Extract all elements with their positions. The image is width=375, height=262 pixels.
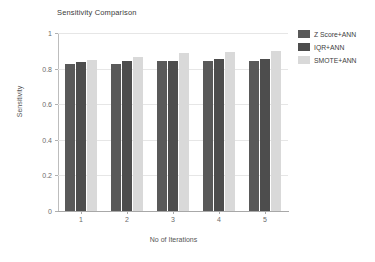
bar[interactable] <box>179 53 189 211</box>
x-axis-tick-mark <box>265 211 266 214</box>
y-axis-tick-label: 0.6 <box>42 101 52 108</box>
bar[interactable] <box>65 64 75 211</box>
bar[interactable] <box>168 61 178 211</box>
x-axis-tick-mark <box>127 211 128 214</box>
bar[interactable] <box>133 57 143 211</box>
legend-swatch-icon <box>298 30 310 38</box>
y-axis-tick-mark <box>55 140 58 141</box>
bar-group <box>242 33 288 211</box>
bar-group <box>196 33 242 211</box>
x-axis-tick-mark <box>173 211 174 214</box>
legend-swatch-icon <box>298 43 310 51</box>
x-axis-tick-label: 3 <box>163 216 183 223</box>
x-axis-tick-mark <box>81 211 82 214</box>
bar[interactable] <box>249 61 259 211</box>
bar[interactable] <box>225 52 235 211</box>
legend-label: Z Score+ANN <box>314 31 356 38</box>
bar-group <box>150 33 196 211</box>
y-axis-tick-label: 0 <box>48 208 52 215</box>
bar[interactable] <box>260 59 270 211</box>
legend-label: IQR+ANN <box>314 44 344 51</box>
bar[interactable] <box>157 61 167 211</box>
chart-legend: Z Score+ANNIQR+ANNSMOTE+ANN <box>298 28 373 67</box>
chart-title: Sensitivity Comparison <box>57 8 137 17</box>
bar[interactable] <box>87 60 97 211</box>
legend-swatch-icon <box>298 56 310 64</box>
bar-group <box>104 33 150 211</box>
x-axis-tick-label: 2 <box>117 216 137 223</box>
y-axis-tick-mark <box>55 175 58 176</box>
y-axis-tick-label: 0.2 <box>42 172 52 179</box>
y-axis-tick-label: 1 <box>48 30 52 37</box>
bar[interactable] <box>203 61 213 211</box>
plot-area <box>58 33 288 211</box>
legend-label: SMOTE+ANN <box>314 57 357 64</box>
legend-item[interactable]: Z Score+ANN <box>298 28 373 40</box>
x-axis-tick-mark <box>219 211 220 214</box>
x-axis-title: No of Iterations <box>58 236 289 243</box>
y-axis-tick-label: 0.8 <box>42 65 52 72</box>
y-axis-tick-mark <box>55 104 58 105</box>
y-axis-tick-mark <box>55 211 58 212</box>
bar[interactable] <box>122 61 132 211</box>
y-axis-tick-labels: 00.20.40.60.81 <box>0 0 52 262</box>
legend-item[interactable]: IQR+ANN <box>298 41 373 53</box>
bar[interactable] <box>271 51 281 211</box>
y-axis-tick-mark <box>55 33 58 34</box>
x-axis-tick-label: 5 <box>255 216 275 223</box>
chart-figure: Sensitivity Comparison 00.20.40.60.81 Se… <box>0 0 375 262</box>
x-axis-tick-label: 4 <box>209 216 229 223</box>
bar[interactable] <box>111 64 121 211</box>
bar-group <box>58 33 104 211</box>
bar[interactable] <box>76 62 86 211</box>
x-axis-tick-label: 1 <box>71 216 91 223</box>
legend-item[interactable]: SMOTE+ANN <box>298 54 373 66</box>
y-axis-tick-label: 0.4 <box>42 136 52 143</box>
bar[interactable] <box>214 59 224 211</box>
y-axis-tick-mark <box>55 69 58 70</box>
y-axis-title: Sensitivity <box>16 72 23 132</box>
